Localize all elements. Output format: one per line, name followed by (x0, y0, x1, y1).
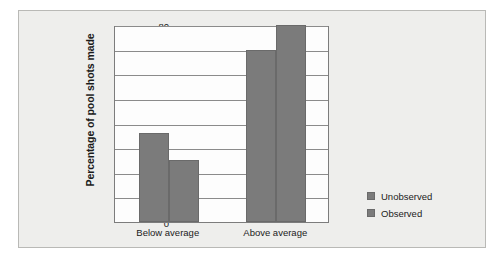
bar (139, 133, 169, 222)
y-axis-title: Percentage of pool shots made (84, 10, 96, 210)
legend: UnobservedObserved (367, 189, 432, 223)
legend-swatch-icon (367, 209, 375, 217)
figure-panel: Percentage of pool shots made 0102030405… (18, 10, 486, 248)
legend-label: Unobserved (381, 191, 432, 202)
bar (276, 25, 306, 222)
bar (246, 50, 276, 222)
bar (169, 160, 199, 222)
x-tick-label: Below average (136, 227, 199, 238)
legend-swatch-icon (367, 192, 375, 200)
legend-item: Unobserved (367, 189, 432, 203)
legend-label: Observed (381, 208, 422, 219)
x-tick-label: Above average (243, 227, 307, 238)
plot-area (114, 26, 329, 223)
legend-item: Observed (367, 206, 432, 220)
